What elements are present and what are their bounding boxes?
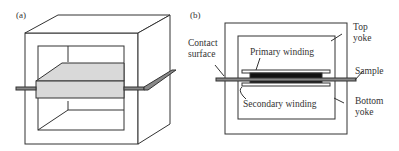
sample-slab-front xyxy=(36,81,124,98)
secondary-winding-leader xyxy=(240,87,246,99)
yoke-side-face xyxy=(138,15,170,144)
top-yoke-label-line2: yoke xyxy=(353,33,371,43)
sample-label: Sample xyxy=(355,66,384,76)
bottom-yoke-label-line1: Bottom xyxy=(355,96,384,106)
bottom-yoke-label-line2: yoke xyxy=(355,107,373,117)
panel-a-label: (a) xyxy=(16,10,26,20)
contact-surface-label-line2: surface xyxy=(188,49,215,59)
panel-b-label: (b) xyxy=(190,10,201,20)
sample-strip-left xyxy=(16,87,36,90)
sample-strip xyxy=(216,78,356,81)
contact-surface-leader xyxy=(215,65,224,76)
panel-a xyxy=(16,15,176,144)
secondary-winding-label: Secondary winding xyxy=(243,99,317,109)
diagram-canvas: (a) (b) Contact surface Primary winding … xyxy=(0,0,399,151)
sample-strip-right xyxy=(124,87,144,90)
secondary-plate-bottom xyxy=(242,83,330,86)
primary-winding-label: Primary winding xyxy=(250,47,314,57)
contact-surface-label-line1: Contact xyxy=(188,38,218,48)
top-yoke-leader xyxy=(331,34,342,41)
primary-winding-leader xyxy=(256,58,260,70)
panel-b xyxy=(215,23,363,134)
top-yoke-label-line1: Top xyxy=(353,22,368,32)
